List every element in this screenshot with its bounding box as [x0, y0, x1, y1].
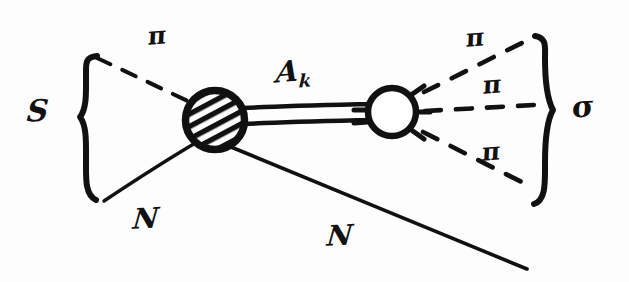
left-curly-brace — [80, 56, 97, 200]
feynman-diagram — [0, 0, 629, 282]
open-circle-vertex — [354, 86, 430, 139]
left-bracket-label-S: S — [26, 96, 50, 127]
incoming-nucleon-line — [104, 142, 197, 201]
figure-canvas: S π N Ak N π π π σ — [0, 0, 629, 282]
incoming-pion-label: π — [147, 22, 167, 48]
outgoing-pion-bottom-line — [423, 132, 532, 187]
incoming-nucleon-label: N — [132, 204, 160, 234]
incoming-pion-line — [97, 58, 192, 103]
outgoing-nucleon-label: N — [326, 221, 354, 251]
right-bracket-label-sigma: σ — [571, 91, 595, 122]
outgoing-pion-middle-label: π — [482, 71, 502, 97]
outgoing-pion-top-label: π — [465, 24, 485, 50]
propagator-label-base: A — [275, 53, 299, 89]
propagator-label-subscript: k — [298, 69, 312, 91]
outgoing-pion-bottom-label: π — [481, 138, 501, 164]
outgoing-pion-middle-line — [425, 105, 534, 111]
hatched-blob-vertex — [185, 90, 246, 151]
propagator-label-Ak: Ak — [275, 55, 311, 87]
right-curly-brace — [534, 36, 553, 204]
propagator-double-line — [243, 104, 370, 124]
